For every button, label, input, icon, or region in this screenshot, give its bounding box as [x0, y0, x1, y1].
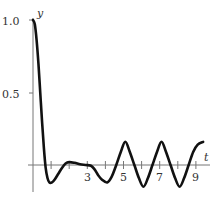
- x-tick-label-5: 5: [120, 171, 127, 184]
- y-axis-label: y: [36, 7, 44, 20]
- x-tick-label-3: 3: [84, 171, 91, 184]
- x-tick-label-7: 7: [156, 171, 163, 184]
- chart: 1.0 0.5 y t 3 5 7 9: [0, 0, 219, 200]
- y-tick-label-1: 1.0: [2, 15, 20, 28]
- x-axis-label: t: [204, 151, 209, 164]
- y-tick-label-05: 0.5: [2, 88, 20, 101]
- x-tick-label-9: 9: [192, 171, 199, 184]
